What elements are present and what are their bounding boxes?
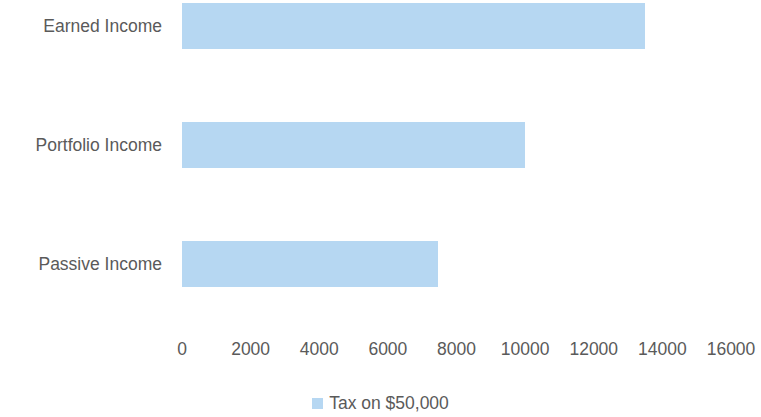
x-tick-label: 8000 [437, 336, 476, 362]
category-label-passive-income: Passive Income [0, 241, 162, 287]
category-label-portfolio-income: Portfolio Income [0, 122, 162, 168]
bar-row: Earned Income [0, 3, 761, 49]
bar-passive-income[interactable] [182, 241, 438, 287]
x-axis: 0200040006000800010000120001400016000 [0, 336, 761, 362]
x-tick-label: 12000 [569, 336, 618, 362]
legend-swatch-icon [312, 398, 323, 409]
x-tick-label: 10000 [501, 336, 550, 362]
legend-item-tax-on-50000: Tax on $50,000 [312, 393, 449, 414]
x-tick-label: 16000 [707, 336, 756, 362]
bar-row: Passive Income [0, 241, 761, 287]
bar-earned-income[interactable] [182, 3, 645, 49]
chart-legend: Tax on $50,000 [0, 390, 761, 417]
x-tick-label: 14000 [638, 336, 687, 362]
x-tick-label: 6000 [368, 336, 407, 362]
plot-area: Earned Income Portfolio Income Passive I… [0, 0, 761, 330]
x-tick-label: 4000 [300, 336, 339, 362]
x-tick-label: 2000 [231, 336, 270, 362]
x-tick-label: 0 [177, 336, 187, 362]
bar-row: Portfolio Income [0, 122, 761, 168]
legend-label: Tax on $50,000 [329, 393, 449, 414]
category-label-earned-income: Earned Income [0, 3, 162, 49]
bar-chart: Earned Income Portfolio Income Passive I… [0, 0, 761, 417]
bar-portfolio-income[interactable] [182, 122, 525, 168]
